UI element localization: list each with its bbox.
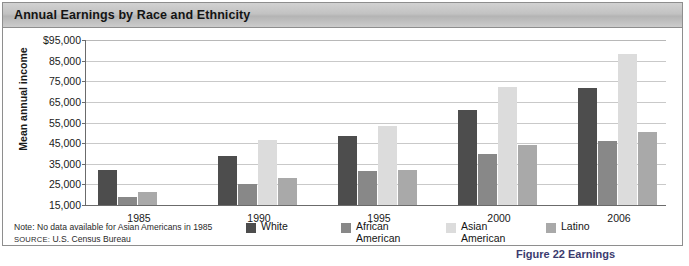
bar [218, 156, 237, 206]
y-tick-mark [82, 143, 86, 144]
y-tick-mark [82, 81, 86, 82]
y-tick-label: 65,000 [49, 96, 81, 108]
bar [578, 88, 597, 205]
bar [238, 184, 257, 205]
y-tick-label: 85,000 [49, 55, 81, 67]
y-tick-mark [82, 40, 86, 41]
y-tick-mark [82, 205, 86, 206]
y-tick-label: 75,000 [49, 75, 81, 87]
bar [98, 170, 117, 205]
bar [458, 110, 477, 205]
source-text: U.S. Census Bureau [52, 234, 130, 244]
plot-area: Mean annual income 15,00025,00035,00045,… [3, 29, 684, 246]
bar-group: 1990 [217, 40, 301, 205]
bar [278, 178, 297, 205]
y-tick-label: 25,000 [49, 178, 81, 190]
bar [618, 54, 637, 205]
bar [638, 132, 657, 205]
y-tick-mark [82, 123, 86, 124]
bar-group: 1995 [337, 40, 421, 205]
bar [358, 171, 377, 205]
source-prefix: SOURCE: [14, 235, 50, 244]
bar [518, 145, 537, 205]
bar [598, 141, 617, 205]
y-tick-mark [82, 164, 86, 165]
source-line: SOURCE: U.S. Census Bureau [14, 234, 212, 246]
axes: 15,00025,00035,00045,00055,00065,00075,0… [85, 40, 666, 206]
bar [138, 192, 157, 205]
bottom-caption: Figure 22 Earnings [516, 250, 615, 260]
y-tick-label: $95,000 [43, 34, 81, 46]
y-tick-mark [82, 184, 86, 185]
bottom-caption-clip: Figure 22 Earnings [0, 250, 689, 266]
bar [498, 87, 517, 205]
bar-group: 2000 [457, 40, 541, 205]
page-title: Annual Earnings by Race and Ethnicity [14, 8, 250, 22]
note-line: Note: No data available for Asian Americ… [14, 222, 212, 234]
legend-swatch-icon [546, 223, 556, 233]
chart-frame: Annual Earnings by Race and Ethnicity Me… [2, 2, 683, 246]
bar [478, 154, 497, 205]
legend-label: African American [356, 220, 400, 244]
y-axis-title: Mean annual income [17, 34, 29, 164]
y-tick-label: 35,000 [49, 158, 81, 170]
title-bar: Annual Earnings by Race and Ethnicity [3, 3, 682, 28]
bar [398, 170, 417, 205]
bar [258, 140, 277, 205]
legend-label: Asian American [461, 220, 505, 244]
y-tick-mark [82, 102, 86, 103]
legend-swatch-icon [246, 223, 256, 233]
bar [338, 136, 357, 205]
legend-swatch-icon [341, 223, 351, 233]
y-tick-label: 55,000 [49, 117, 81, 129]
legend-swatch-icon [446, 223, 456, 233]
y-tick-label: 15,000 [49, 199, 81, 211]
bar [118, 197, 137, 205]
chart-footer: Note: No data available for Asian Americ… [3, 222, 684, 246]
y-tick-mark [82, 61, 86, 62]
bar-group: 1985 [97, 40, 181, 205]
figure-root: Annual Earnings by Race and Ethnicity Me… [0, 0, 689, 266]
y-tick-label: 45,000 [49, 137, 81, 149]
legend-label: White [261, 220, 288, 232]
legend-label: Latino [561, 220, 590, 232]
chart-note: Note: No data available for Asian Americ… [14, 222, 212, 245]
bar [378, 126, 397, 205]
bar-group: 2006 [577, 40, 661, 205]
